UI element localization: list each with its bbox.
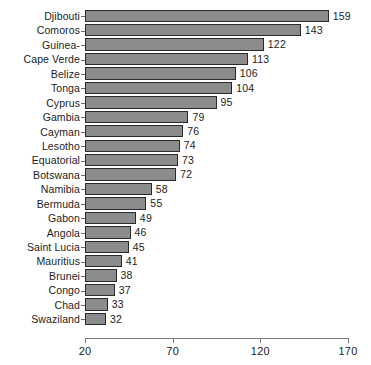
x-axis-tick-label: 170 [339, 345, 358, 357]
bar-value-label: 159 [333, 9, 351, 23]
bar-row: 159 [85, 9, 371, 23]
bar-value-label: 45 [133, 240, 145, 254]
bar-value-label: 113 [252, 52, 269, 66]
x-axis-tick [348, 338, 349, 343]
bar-value-label: 33 [112, 297, 124, 311]
bar-value-label: 122 [268, 37, 286, 51]
x-axis-tick-label: 20 [79, 345, 92, 357]
x-axis-tick [85, 338, 86, 343]
category-label: Cape Verde [0, 52, 80, 66]
bar-value-label: 104 [236, 81, 254, 95]
bar [85, 140, 180, 152]
bar-value-label: 76 [187, 124, 199, 138]
bar [85, 53, 248, 65]
bar-value-label: 46 [135, 225, 147, 239]
bar [85, 255, 122, 267]
category-axis-labels: DjiboutiComorosGuinea-Cape VerdeBelizeTo… [0, 9, 80, 327]
bar-value-label: 38 [121, 268, 133, 282]
bar-row: 38 [85, 269, 371, 283]
category-label: Brunei [0, 269, 80, 283]
bar [85, 82, 232, 94]
plot-area: 1591431221131061049579767473725855494645… [85, 9, 371, 329]
bar-value-label: 41 [126, 254, 138, 268]
category-label: Comoros [0, 23, 80, 37]
bar [85, 269, 117, 281]
bar-value-label: 73 [182, 153, 194, 167]
bar-row: 72 [85, 168, 371, 182]
bar-row: 79 [85, 110, 371, 124]
x-axis-line [85, 338, 349, 339]
category-label: Tonga [0, 81, 80, 95]
category-label: Congo [0, 283, 80, 297]
x-axis-tick-label: 120 [251, 345, 270, 357]
bar-row: 32 [85, 312, 371, 326]
x-axis-tick-label: 70 [166, 345, 179, 357]
bar-row: 122 [85, 38, 371, 52]
bar-row: 46 [85, 226, 371, 240]
bar [85, 125, 183, 137]
bar-row: 143 [85, 23, 371, 37]
category-label: Bermuda [0, 197, 80, 211]
bar [85, 183, 152, 195]
bar-value-label: 72 [180, 167, 192, 181]
bar-row: 95 [85, 96, 371, 110]
bar-value-label: 37 [119, 283, 131, 297]
bar [85, 38, 264, 50]
x-axis-tick [260, 338, 261, 343]
bar-row: 41 [85, 254, 371, 268]
category-label: Namibia [0, 182, 80, 196]
bar-value-label: 95 [221, 95, 233, 109]
category-label: Guinea- [0, 38, 80, 52]
bar [85, 154, 178, 166]
bar [85, 197, 146, 209]
bar [85, 111, 188, 123]
bar-value-label: 106 [240, 66, 258, 80]
category-label: Cyprus [0, 96, 80, 110]
bar-value-label: 32 [110, 312, 122, 326]
category-label: Lesotho [0, 139, 80, 153]
bar [85, 284, 115, 296]
bar [85, 298, 108, 310]
bar-chart: DjiboutiComorosGuinea-Cape VerdeBelizeTo… [0, 0, 371, 365]
bar-row: 45 [85, 240, 371, 254]
bar-row: 58 [85, 182, 371, 196]
bar-value-label: 74 [184, 138, 196, 152]
bar-row: 74 [85, 139, 371, 153]
bar [85, 96, 217, 108]
bar-value-label: 58 [156, 182, 168, 196]
bar [85, 10, 329, 22]
category-label: Belize [0, 67, 80, 81]
bar-row: 33 [85, 298, 371, 312]
category-label: Equatorial [0, 153, 80, 167]
category-label: Gabon [0, 211, 80, 225]
bar [85, 313, 106, 325]
bar [85, 226, 131, 238]
bar [85, 212, 136, 224]
category-label: Botswana [0, 168, 80, 182]
bar [85, 67, 236, 79]
bar [85, 24, 301, 36]
bar-value-label: 55 [150, 196, 162, 210]
bar-row: 73 [85, 153, 371, 167]
bar-row: 76 [85, 125, 371, 139]
category-label: Mauritius [0, 254, 80, 268]
bar-row: 55 [85, 197, 371, 211]
category-label: Djibouti [0, 9, 80, 23]
bar-value-label: 143 [305, 23, 323, 37]
bar-row: 104 [85, 81, 371, 95]
bar [85, 168, 176, 180]
category-label: Gambia [0, 110, 80, 124]
bar-row: 113 [85, 52, 371, 66]
category-label: Cayman [0, 125, 80, 139]
category-label: Swaziland [0, 312, 80, 326]
bar-row: 37 [85, 283, 371, 297]
bar-row: 106 [85, 67, 371, 81]
x-axis-tick [173, 338, 174, 343]
category-label: Angola [0, 226, 80, 240]
category-label: Saint Lucia [0, 240, 80, 254]
category-label: Chad [0, 298, 80, 312]
bar-value-label: 49 [140, 211, 152, 225]
bar-value-label: 79 [192, 110, 204, 124]
bar-row: 49 [85, 211, 371, 225]
bar [85, 241, 129, 253]
